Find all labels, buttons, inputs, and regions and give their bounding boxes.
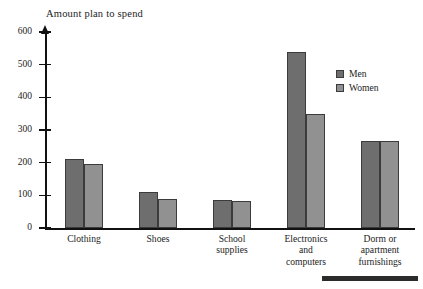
bar-chart-figure: Amount plan to spend 0100200300400500600… [0,0,423,289]
bars-layer [45,32,415,228]
bar-men-1 [139,192,158,228]
bar-women-1 [158,199,177,228]
legend: Men Women [336,68,379,96]
y-tick-label: 400 [6,92,32,102]
bottom-rule-artifact [322,276,418,281]
legend-label-men: Men [349,68,367,80]
x-axis-label-line: Dorm or [335,233,423,244]
bar-women-4 [380,141,399,228]
x-axis-label-line: furnishings [335,256,423,267]
legend-swatch-men-icon [336,70,344,78]
legend-label-women: Women [349,82,379,94]
x-axis-line [45,228,415,230]
legend-swatch-women-icon [336,84,344,92]
bar-men-0 [65,159,84,228]
bar-men-4 [361,141,380,228]
y-tick-label: 500 [6,60,32,70]
bar-men-2 [213,200,232,228]
y-tick-label: 0 [6,223,32,233]
plot-area: 0100200300400500600 ClothingShoesSchools… [0,0,423,289]
bar-women-2 [232,201,251,228]
bar-women-0 [84,164,103,228]
y-tick-label: 600 [6,27,32,37]
x-axis-label-line: apartment [335,244,423,255]
legend-item-men: Men [336,68,379,80]
y-tick-label: 300 [6,125,32,135]
legend-item-women: Women [336,82,379,94]
y-tick-label: 100 [6,190,32,200]
x-axis-label-4: Dorm orapartmentfurnishings [335,233,423,267]
bar-men-3 [287,52,306,228]
y-tick-label: 200 [6,158,32,168]
bar-women-3 [306,114,325,228]
